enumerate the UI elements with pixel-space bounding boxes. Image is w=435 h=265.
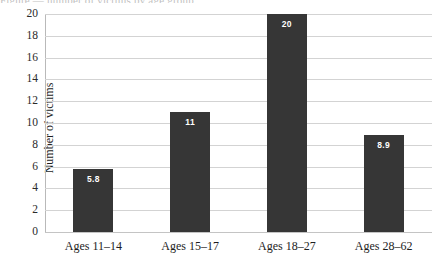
- x-axis-tick-label: Ages 28–62: [335, 240, 432, 252]
- gridline: [45, 79, 432, 80]
- bar-value-label: 20: [267, 20, 307, 29]
- gridline: [45, 232, 432, 233]
- bar-value-label: 11: [170, 118, 210, 127]
- y-axis-tick-label: 4: [0, 182, 38, 194]
- x-axis-tick-label: Ages 15–17: [142, 240, 239, 252]
- y-axis-tick-label: 0: [0, 226, 38, 238]
- y-axis-tick-label: 16: [0, 52, 38, 64]
- y-axis-tick-label: 10: [0, 117, 38, 129]
- gridline: [45, 14, 432, 15]
- bar-chart-figure: Figure — number of victims by age group …: [0, 0, 435, 265]
- y-axis-tick-label: 2: [0, 204, 38, 216]
- bar: 5.8: [73, 169, 113, 232]
- x-axis-tick-label: Ages 18–27: [239, 240, 336, 252]
- clipped-figure-title: Figure — number of victims by age group: [0, 0, 435, 3]
- gridline: [45, 101, 432, 102]
- y-axis-tick-label: 20: [0, 8, 38, 20]
- y-axis-tick-label: 6: [0, 161, 38, 173]
- bar-value-label: 5.8: [73, 175, 113, 184]
- gridline: [45, 36, 432, 37]
- bar: 20: [267, 14, 307, 232]
- y-axis-tick-label: 14: [0, 73, 38, 85]
- plot-area: 5.811208.9: [45, 14, 432, 232]
- bar-value-label: 8.9: [364, 141, 404, 150]
- x-axis-tick-label: Ages 11–14: [45, 240, 142, 252]
- y-axis-tick-label: 18: [0, 30, 38, 42]
- bar: 8.9: [364, 135, 404, 232]
- y-axis-tick-label: 12: [0, 95, 38, 107]
- gridline: [45, 58, 432, 59]
- bar: 11: [170, 112, 210, 232]
- y-axis-tick-label: 8: [0, 139, 38, 151]
- gridline: [45, 123, 432, 124]
